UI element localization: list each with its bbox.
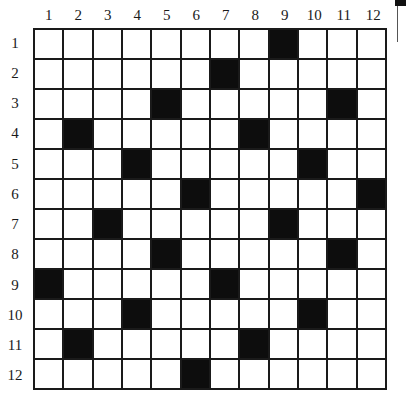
grid-cell[interactable] [328,180,355,208]
grid-cell[interactable] [211,120,238,148]
grid-cell[interactable] [358,240,385,268]
grid-cell[interactable] [270,60,297,88]
grid-cell[interactable] [270,360,297,388]
grid-cell[interactable] [35,330,62,358]
grid-cell[interactable] [328,210,355,238]
grid-cell[interactable] [211,240,238,268]
grid-cell[interactable] [152,120,179,148]
grid-cell[interactable] [182,120,209,148]
grid-cell[interactable] [152,360,179,388]
grid-cell[interactable] [211,30,238,58]
grid-cell[interactable] [299,90,326,118]
grid-cell[interactable] [35,210,62,238]
grid-cell[interactable] [358,360,385,388]
grid-cell[interactable] [182,240,209,268]
grid-cell[interactable] [182,270,209,298]
grid-cell[interactable] [270,150,297,178]
grid-cell[interactable] [270,120,297,148]
grid-cell[interactable] [123,360,150,388]
grid-cell[interactable] [299,120,326,148]
grid-cell[interactable] [240,90,267,118]
grid-cell[interactable] [299,180,326,208]
grid-cell[interactable] [358,30,385,58]
grid-cell[interactable] [358,330,385,358]
grid-cell[interactable] [328,330,355,358]
grid-cell[interactable] [299,240,326,268]
grid-cell[interactable] [328,60,355,88]
grid-cell[interactable] [270,90,297,118]
grid-cell[interactable] [240,270,267,298]
grid-cell[interactable] [328,300,355,328]
grid-cell[interactable] [123,180,150,208]
grid-cell[interactable] [299,210,326,238]
grid-cell[interactable] [299,360,326,388]
grid-cell[interactable] [123,210,150,238]
grid-cell[interactable] [94,360,121,388]
grid-cell[interactable] [299,30,326,58]
grid-cell[interactable] [358,210,385,238]
grid-cell[interactable] [211,300,238,328]
grid-cell[interactable] [152,210,179,238]
grid-cell[interactable] [270,180,297,208]
grid-cell[interactable] [35,150,62,178]
grid-cell[interactable] [94,240,121,268]
grid-cell[interactable] [152,330,179,358]
grid-cell[interactable] [94,270,121,298]
grid-cell[interactable] [240,240,267,268]
grid-cell[interactable] [94,180,121,208]
grid-cell[interactable] [240,210,267,238]
grid-cell[interactable] [94,150,121,178]
grid-cell[interactable] [358,90,385,118]
grid-cell[interactable] [182,90,209,118]
grid-cell[interactable] [358,60,385,88]
grid-cell[interactable] [94,330,121,358]
grid-cell[interactable] [211,330,238,358]
grid-cell[interactable] [35,300,62,328]
grid-cell[interactable] [358,300,385,328]
grid-cell[interactable] [240,150,267,178]
grid-cell[interactable] [64,360,91,388]
grid-cell[interactable] [182,150,209,178]
grid-cell[interactable] [152,270,179,298]
grid-cell[interactable] [152,150,179,178]
grid-cell[interactable] [152,180,179,208]
grid-cell[interactable] [328,270,355,298]
grid-cell[interactable] [358,270,385,298]
grid-cell[interactable] [35,120,62,148]
grid-cell[interactable] [35,30,62,58]
grid-cell[interactable] [328,30,355,58]
grid-cell[interactable] [64,210,91,238]
grid-cell[interactable] [240,60,267,88]
grid-cell[interactable] [94,60,121,88]
grid-cell[interactable] [328,360,355,388]
grid-cell[interactable] [240,300,267,328]
grid-cell[interactable] [35,240,62,268]
grid-cell[interactable] [270,240,297,268]
grid-cell[interactable] [123,120,150,148]
grid-cell[interactable] [64,180,91,208]
grid-cell[interactable] [182,330,209,358]
grid-cell[interactable] [35,60,62,88]
grid-cell[interactable] [299,60,326,88]
grid-cell[interactable] [152,300,179,328]
grid-cell[interactable] [64,30,91,58]
grid-cell[interactable] [240,360,267,388]
grid-cell[interactable] [152,30,179,58]
grid-cell[interactable] [211,90,238,118]
grid-cell[interactable] [123,270,150,298]
grid-cell[interactable] [182,60,209,88]
grid-cell[interactable] [299,330,326,358]
grid-cell[interactable] [35,360,62,388]
grid-cell[interactable] [64,270,91,298]
grid-cell[interactable] [123,240,150,268]
grid-cell[interactable] [64,240,91,268]
grid-cell[interactable] [182,300,209,328]
grid-cell[interactable] [123,60,150,88]
grid-cell[interactable] [123,30,150,58]
grid-cell[interactable] [123,330,150,358]
grid-cell[interactable] [35,90,62,118]
grid-cell[interactable] [182,210,209,238]
grid-cell[interactable] [182,30,209,58]
grid-cell[interactable] [123,90,150,118]
grid-cell[interactable] [240,180,267,208]
